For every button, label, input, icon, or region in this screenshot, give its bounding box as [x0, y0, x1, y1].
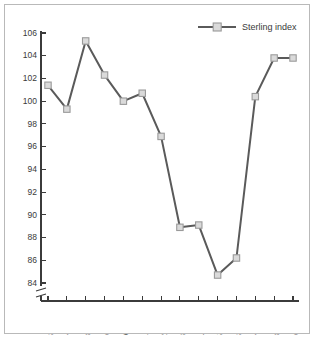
y-axis-tick-label: 84	[28, 278, 38, 288]
x-axis-tick-label: 1995	[215, 334, 225, 335]
y-axis-tick-label: 86	[28, 255, 38, 265]
x-axis-tick-label: 1997	[253, 334, 263, 335]
data-point-marker[interactable]	[214, 272, 220, 278]
x-axis-tick-label: 1994	[197, 334, 207, 335]
data-point-marker[interactable]	[177, 224, 183, 230]
x-axis-tick-label: 1999	[291, 334, 301, 335]
x-axis-tick-label: 1989	[102, 334, 112, 335]
y-axis-break-icon	[36, 288, 46, 297]
y-axis-tick-label: 98	[28, 119, 38, 129]
x-axis-tick-label: 1998	[272, 334, 282, 335]
data-point-marker[interactable]	[196, 222, 202, 228]
data-point-marker[interactable]	[252, 93, 258, 99]
x-axis-tick-label: 1996	[234, 334, 244, 335]
data-point-marker[interactable]	[139, 90, 145, 96]
y-axis-tick-label: 104	[23, 50, 37, 60]
y-axis-tick-label: 100	[23, 96, 37, 106]
data-point-marker[interactable]	[158, 133, 164, 139]
chart-plot-area: 8486889092949698100102104106198619871988…	[5, 5, 311, 335]
data-point-marker[interactable]	[233, 255, 239, 261]
y-axis-tick-label: 96	[28, 141, 38, 151]
data-point-marker[interactable]	[64, 106, 70, 112]
series-line-sterling-index	[48, 41, 293, 275]
y-axis-tick-label: 88	[28, 232, 38, 242]
legend-entry-label: Sterling index	[242, 22, 297, 32]
x-axis-tick-label: 1986	[46, 334, 56, 335]
x-axis-tick-label: 1993	[178, 334, 188, 335]
x-axis-tick-label: 1990	[121, 334, 131, 335]
y-axis-tick-label: 102	[23, 73, 37, 83]
x-axis-tick-label: 1988	[83, 334, 93, 335]
y-axis-tick-label: 92	[28, 187, 38, 197]
y-axis-tick-label: 106	[23, 28, 37, 38]
y-axis-tick-label: 90	[28, 210, 38, 220]
sterling-index-line-chart: 8486889092949698100102104106198619871988…	[5, 5, 311, 335]
data-point-marker[interactable]	[45, 82, 51, 88]
data-point-marker[interactable]	[271, 55, 277, 61]
data-point-marker[interactable]	[101, 72, 107, 78]
legend-marker-swatch	[213, 23, 221, 31]
x-axis-tick-label: 1987	[65, 334, 75, 335]
x-axis-tick-label: 1991	[140, 334, 150, 335]
data-point-marker[interactable]	[120, 98, 126, 104]
x-axis-tick-label: 1992	[159, 334, 169, 335]
data-point-marker[interactable]	[290, 55, 296, 61]
chart-frame: 8486889092949698100102104106198619871988…	[4, 4, 310, 334]
chart-legend: Sterling index	[198, 22, 297, 32]
data-point-marker[interactable]	[82, 38, 88, 44]
y-axis-tick-label: 94	[28, 164, 38, 174]
